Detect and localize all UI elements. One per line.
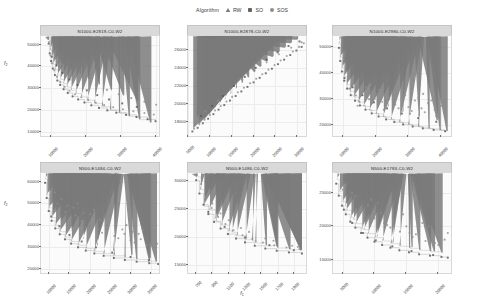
plot-area-4 xyxy=(187,172,307,274)
facet-panel-5: N500-E1783-C0-W2150002000025000500010000… xyxy=(310,154,452,295)
x-tick-mark xyxy=(440,135,441,137)
facet-panel-1: N1000-E2878-C0-W218000200002200024000260… xyxy=(165,17,307,158)
facet-grid: N1000-E2819-C0-W210000200003000040000500… xyxy=(0,17,484,299)
y-tick-label: 50000 xyxy=(319,43,331,48)
x-tick-label: 20000 xyxy=(85,283,97,295)
x-tick-label: 10000 xyxy=(370,283,382,295)
plot-area-0 xyxy=(40,35,160,137)
x-tick-mark xyxy=(187,135,188,137)
y-tick-label: 15000 xyxy=(174,261,186,266)
y-tick-label: 22000 xyxy=(174,83,186,88)
facet-row-top: N1000-E2819-C0-W210000200003000040000500… xyxy=(0,17,484,158)
x-tick-mark xyxy=(155,135,156,137)
x-tick-mark xyxy=(375,135,376,137)
x-tick-mark xyxy=(437,272,438,274)
y-tick-label: 30000 xyxy=(319,96,331,101)
y-tick-mark xyxy=(39,109,41,110)
x-tick-label: 25000 xyxy=(106,283,118,295)
y-tick-mark xyxy=(39,224,41,225)
y-tick-mark xyxy=(39,268,41,269)
x-tick-mark xyxy=(89,272,90,274)
y-tick-label: 20000 xyxy=(319,223,331,228)
x-tick-label: 20000 xyxy=(434,283,446,295)
facet-strip-label-3: N500-E1484-C0-W2 xyxy=(79,166,121,171)
y-tick-mark xyxy=(331,46,333,47)
x-tick-mark xyxy=(342,135,343,137)
plot-area-1 xyxy=(187,35,307,137)
x-tick-mark xyxy=(342,272,343,274)
circle-marker-icon xyxy=(269,7,275,13)
facet-row-bottom: N500-E1484-C0-W2200003000040000500006000… xyxy=(0,154,484,295)
facet-strip-label-4: N500-E1486-C0-W2 xyxy=(226,166,268,171)
x-tick-mark xyxy=(150,272,151,274)
x-tick-mark xyxy=(48,272,49,274)
legend-item-rw[interactable]: RW xyxy=(225,7,242,13)
x-tick-label: 5000 xyxy=(339,282,349,292)
x-tick-label: 1500 xyxy=(258,282,268,292)
x-tick-mark xyxy=(373,272,374,274)
y-tick-label: 30000 xyxy=(27,85,39,90)
y-tick-mark xyxy=(186,236,188,237)
y-tick-mark xyxy=(39,87,41,88)
x-tick-labels-4: 70090011001300150017001900 xyxy=(187,272,307,295)
x-tick-mark xyxy=(260,272,261,274)
x-tick-mark xyxy=(50,135,51,137)
plot-area-5 xyxy=(332,172,452,274)
x-tick-label: 15000 xyxy=(65,283,77,295)
facet-strip-label-5: N500-E1783-C0-W2 xyxy=(371,166,413,171)
y-tick-labels-3: 2000030000400005000060000 xyxy=(18,172,39,272)
plot-area-2 xyxy=(332,35,452,137)
y-tick-mark xyxy=(39,65,41,66)
x-tick-mark xyxy=(293,272,294,274)
y-tick-labels-4: 15000200002500030000 xyxy=(165,172,186,272)
facet-strip-label-0: N1000-E2819-C0-W2 xyxy=(78,29,123,34)
y-tick-mark xyxy=(39,44,41,45)
y-tick-mark xyxy=(186,121,188,122)
x-tick-mark xyxy=(405,272,406,274)
y-tick-label: 40000 xyxy=(27,222,39,227)
y-tick-mark xyxy=(186,103,188,104)
x-tick-label: 1700 xyxy=(274,282,284,292)
y-tick-label: 40000 xyxy=(27,63,39,68)
y-tick-label: 25000 xyxy=(174,206,186,211)
facet-panel-3: N500-E1484-C0-W2200003000040000500006000… xyxy=(18,154,160,295)
y-tick-mark xyxy=(331,72,333,73)
x-tick-mark xyxy=(130,272,131,274)
square-marker-icon xyxy=(247,7,253,13)
x-tick-mark xyxy=(120,135,121,137)
y-tick-mark xyxy=(331,225,333,226)
y-tick-mark xyxy=(186,264,188,265)
y-tick-mark xyxy=(186,67,188,68)
legend-item-so[interactable]: SO xyxy=(247,7,263,13)
x-tick-label: 1900 xyxy=(290,282,300,292)
x-tick-mark xyxy=(231,135,232,137)
x-tick-mark xyxy=(85,135,86,137)
x-tick-label: 1300 xyxy=(242,282,252,292)
y-tick-label: 20000 xyxy=(27,265,39,270)
x-tick-mark xyxy=(244,272,245,274)
facet-panel-0: N1000-E2819-C0-W210000200003000040000500… xyxy=(18,17,160,158)
legend-label-rw: RW xyxy=(233,7,242,13)
x-tick-mark xyxy=(209,135,210,137)
y-tick-label: 60000 xyxy=(27,178,39,183)
x-tick-mark xyxy=(253,135,254,137)
plot-area-3 xyxy=(40,172,160,274)
y-tick-labels-5: 150002000025000 xyxy=(310,172,331,272)
legend-item-sos[interactable]: SOS xyxy=(269,7,288,13)
x-tick-mark xyxy=(211,272,212,274)
y-tick-label: 15000 xyxy=(319,256,331,261)
x-tick-mark xyxy=(109,272,110,274)
x-tick-label: 35000 xyxy=(147,283,159,295)
y-tick-label: 50000 xyxy=(27,200,39,205)
y-tick-mark xyxy=(39,246,41,247)
figure-root: Algorithm RW SO SOS xyxy=(0,0,484,299)
x-tick-mark xyxy=(274,135,275,137)
y-tick-mark xyxy=(331,192,333,193)
x-tick-label: 700 xyxy=(194,280,202,288)
y-tick-labels-0: 1000020000300004000050000 xyxy=(18,35,39,135)
y-tick-mark xyxy=(331,98,333,99)
y-tick-mark xyxy=(186,208,188,209)
x-tick-mark xyxy=(228,272,229,274)
x-tick-labels-3: 100001500020000250003000035000 xyxy=(40,272,160,295)
triangle-marker-icon xyxy=(225,7,231,13)
